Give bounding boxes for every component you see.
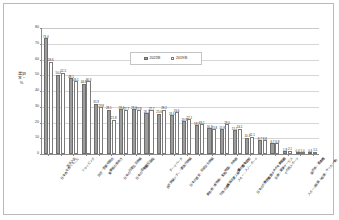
bar-group: 31.929.8繁華街の街歩き	[92, 28, 105, 154]
y-tick-label: 0	[37, 152, 39, 156]
legend-swatch-2022	[144, 57, 148, 61]
bar-value-label: 6.7	[270, 141, 274, 144]
bar-value-label: 29.8	[98, 105, 104, 108]
legend-item-2022: 2022年	[144, 57, 162, 61]
bar-value-label: 8.7	[258, 138, 262, 141]
bar-group: 1.82.1スポーツ観戦（相撲・サッカー等）	[281, 28, 294, 154]
bar-value-label: 58.6	[48, 59, 54, 62]
bar-group: 28.627.8旅館に宿泊	[130, 28, 143, 154]
bar-2019: 26.6	[175, 112, 179, 154]
bar-2022: 6.7	[270, 143, 274, 154]
x-tick-mark	[237, 154, 238, 156]
bar-2019: 27.7	[149, 110, 153, 154]
plot-area: 0102030405060708073.458.6日本食を食べること50.451…	[41, 28, 319, 155]
bar-value-label: 16.1	[237, 126, 243, 129]
bar-2022: 8.7	[258, 140, 262, 154]
bar-group: 8.78.8治療・健康サービス	[256, 28, 269, 154]
y-tick-mark	[40, 154, 42, 155]
bar-2022: 24.6	[170, 115, 174, 154]
legend-item-2019: 2019年	[171, 57, 189, 61]
bar-2022: 15.1	[233, 130, 237, 154]
bar-group: 15.116.1日本のポップカルチャーを楽しむ	[231, 28, 244, 154]
bar-value-label: 2.1	[288, 148, 292, 151]
bar-value-label: 1.8	[283, 149, 287, 152]
bar-2022: 18.2	[195, 125, 199, 154]
bar-2022: 25.6	[157, 114, 161, 154]
legend-label-2019: 2019年	[176, 57, 188, 61]
y-tick-label: 50	[35, 73, 39, 77]
y-tick-label: 10	[35, 136, 39, 140]
bar-group: 0.41.5その他	[306, 28, 319, 154]
bar-2022: 50.4	[56, 75, 60, 154]
x-tick-mark	[313, 154, 314, 156]
bar-group: 15.819.0スキー・スノーボード	[218, 28, 231, 154]
bar-value-label: 46.3	[86, 79, 92, 82]
bar-value-label: 28.2	[161, 107, 167, 110]
x-axis-label: 旅館に宿泊	[144, 157, 156, 171]
bar-value-label: 26.6	[174, 110, 180, 113]
x-tick-mark	[250, 154, 251, 156]
bar-group: 48.146.1ショッピング	[67, 28, 80, 154]
bar-2019: 6.8	[275, 143, 279, 154]
bar-2019: 27.7	[124, 110, 128, 154]
y-tick-label: 60	[35, 58, 39, 62]
y-axis-title: 選択率・%	[17, 72, 26, 85]
bar-value-label: 28.1	[106, 107, 112, 110]
bar-value-label: 19.0	[224, 122, 230, 125]
bar-group: 28.427.7日本の酒を飲むこと	[118, 28, 131, 154]
x-axis-label: ショッピング	[82, 157, 96, 173]
bar-2022: 28.6	[132, 109, 136, 154]
bar-value-label: 27.7	[123, 108, 129, 111]
y-tick-label: 30	[35, 105, 39, 109]
x-tick-mark	[86, 154, 87, 156]
bar-value-label: 1.5	[313, 149, 317, 152]
bar-value-label: 21.8	[111, 117, 117, 120]
bar-value-label: 73.4	[43, 36, 49, 39]
bar-2019: 27.8	[137, 110, 141, 154]
chart-frame: 選択率・% 0102030405060708073.458.6日本食を食べること…	[3, 3, 334, 215]
bar-2019: 58.6	[49, 62, 53, 154]
bar-2019: 22.1	[187, 119, 191, 154]
bar-value-label: 27.8	[136, 108, 142, 111]
bar-2022: 1.8	[283, 151, 287, 154]
bar-value-label: 1.0	[301, 150, 305, 153]
x-tick-mark	[199, 154, 200, 156]
bar-value-label: 27.7	[149, 108, 155, 111]
bar-group: 18.219.1四季の体感（花見・紅葉・雪など）	[193, 28, 206, 154]
x-tick-mark	[48, 154, 49, 156]
bar-value-label: 8.8	[263, 138, 267, 141]
x-tick-mark	[136, 154, 137, 156]
bar-value-label: 0.4	[296, 150, 300, 153]
bar-2019: 1.5	[313, 152, 317, 154]
x-tick-mark	[212, 154, 213, 156]
bar-2019: 19.0	[225, 124, 229, 154]
bar-group: 20.822.1美術館・博物館・動植物園・水族館	[181, 28, 194, 154]
x-tick-mark	[187, 154, 188, 156]
bar-2019: 21.8	[112, 120, 116, 154]
x-tick-mark	[162, 154, 163, 156]
bar-2022: 15.8	[220, 129, 224, 154]
x-tick-mark	[275, 154, 276, 156]
x-tick-mark	[99, 154, 100, 156]
x-tick-mark	[300, 154, 301, 156]
x-axis-label: 日本の歴史・伝統文化体験	[190, 157, 215, 187]
x-tick-mark	[149, 154, 150, 156]
bar-group: 24.626.6日本の歴史・伝統文化体験	[168, 28, 181, 154]
bar-group: 44.646.3自然・景勝地観光	[80, 28, 93, 154]
bar-value-label: 11.1	[249, 134, 254, 137]
bar-value-label: 0.4	[308, 150, 312, 153]
x-tick-mark	[61, 154, 62, 156]
bar-2019: 51.5	[61, 73, 65, 154]
x-tick-mark	[174, 154, 175, 156]
y-tick-label: 70	[35, 42, 39, 46]
x-tick-mark	[111, 154, 112, 156]
bar-group: 16.315.8映画・アニメ縁の地を訪問	[206, 28, 219, 154]
bar-group: 73.458.6日本食を食べること	[42, 28, 55, 154]
bar-2022: 10.3	[245, 138, 249, 154]
bar-group: 28.121.8日本の日常生活体験	[105, 28, 118, 154]
bar-group: 0.41.0展示会・見本市	[294, 28, 307, 154]
bar-group: 6.76.8その他スポーツ	[269, 28, 282, 154]
chart-inner: 選択率・% 0102030405060708073.458.6日本食を食べること…	[10, 10, 327, 208]
bar-2019: 1.0	[300, 152, 304, 154]
bar-2019: 2.1	[288, 151, 292, 154]
